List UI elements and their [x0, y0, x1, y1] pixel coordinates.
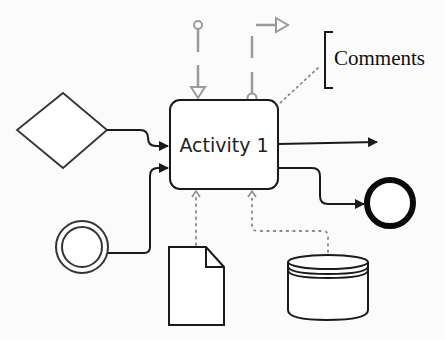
outgoing-message-flow: [248, 18, 289, 103]
gateway-diamond[interactable]: [17, 93, 107, 168]
data-store-association: [248, 191, 328, 252]
activity-label: Activity 1: [179, 134, 268, 156]
annotation-association: [280, 68, 318, 103]
diagram-canvas: Activity 1 Comments: [0, 0, 445, 340]
event-sequence-flow: [108, 168, 168, 253]
outgoing-sequence-flow: [278, 142, 377, 144]
gateway-sequence-flow: [107, 130, 168, 146]
data-store[interactable]: [288, 255, 368, 320]
intermediate-event[interactable]: [56, 221, 108, 273]
incoming-message-flow: [191, 21, 205, 98]
annotation-label: Comments: [334, 46, 425, 70]
text-annotation[interactable]: Comments: [325, 32, 425, 88]
activity-task[interactable]: Activity 1: [170, 100, 278, 189]
data-object-association: [192, 191, 200, 245]
end-event[interactable]: [367, 180, 413, 226]
end-event-sequence-flow: [278, 168, 364, 204]
data-object[interactable]: [169, 247, 224, 325]
